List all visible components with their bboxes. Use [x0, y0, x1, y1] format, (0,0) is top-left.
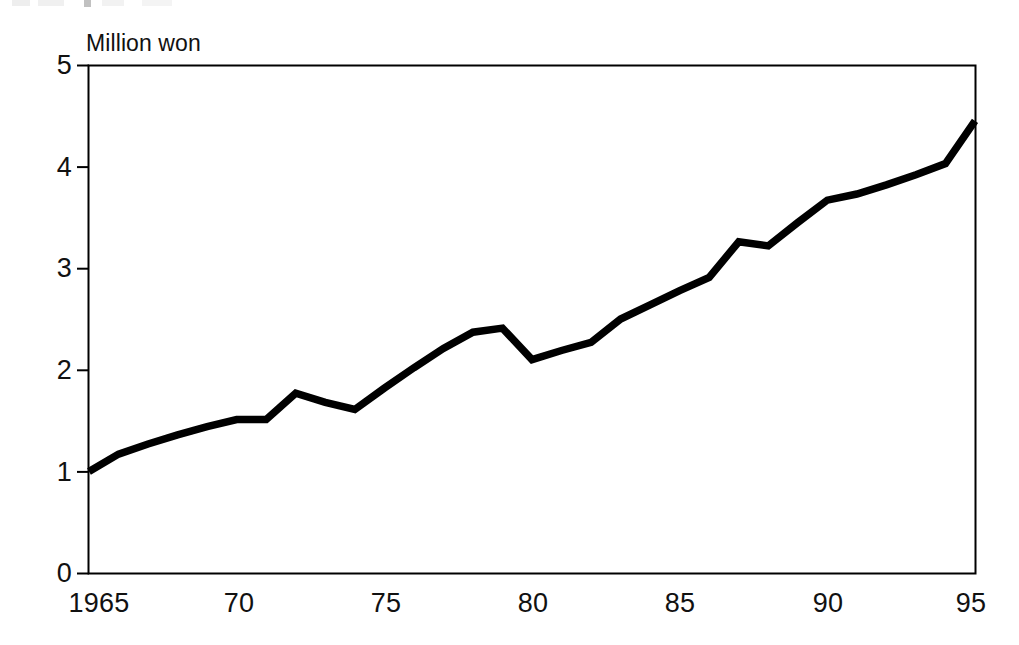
y-tick-label-5: 5	[26, 52, 72, 79]
y-tick-label-3: 3	[26, 255, 72, 282]
y-tick-label-1: 1	[26, 459, 72, 486]
plot-area	[0, 0, 1019, 645]
y-axis-tick-marks	[77, 66, 89, 574]
plot-frame-border	[89, 66, 976, 574]
x-tick-label-1980: 80	[518, 590, 548, 617]
x-tick-label-1990: 90	[813, 590, 843, 617]
clipped-title-scan-artifact	[10, 0, 200, 7]
y-tick-label-0: 0	[26, 560, 72, 587]
x-tick-label-1970: 70	[224, 590, 254, 617]
y-tick-label-4: 4	[26, 154, 72, 181]
x-tick-label-1965: 1965	[69, 590, 130, 617]
line-chart-figure: Million won 5 4 3 2 1 0 1965 70 75 80 85…	[0, 0, 1019, 645]
x-tick-label-1985: 85	[665, 590, 695, 617]
x-tick-label-1975: 75	[371, 590, 401, 617]
x-tick-label-1995: 95	[956, 590, 986, 617]
y-tick-label-2: 2	[26, 357, 72, 384]
y-axis-unit-label: Million won	[86, 30, 201, 56]
series-line-million-won	[89, 121, 975, 472]
